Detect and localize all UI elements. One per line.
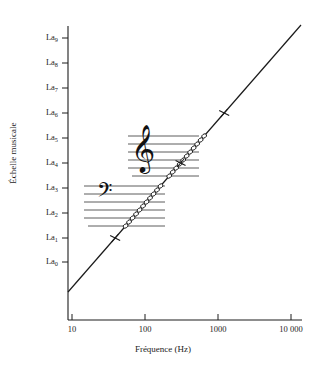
octave-cross-stroke-b-0	[112, 234, 119, 242]
y-tick-label-La2: La2	[24, 208, 58, 217]
x-axis-ticks	[72, 314, 291, 320]
y-tick-label-La4: La4	[24, 158, 58, 167]
y-tick-label-La7: La7	[24, 83, 58, 92]
x-tick-label-10: 10	[48, 325, 96, 334]
octave-cross-2	[219, 109, 229, 117]
x-tick-label-1000: 1000	[194, 325, 242, 334]
y-axis-title: Échelle musicale	[8, 93, 18, 213]
octave-cross-stroke-b-2	[221, 109, 228, 117]
y-tick-label-La0: La0	[24, 257, 58, 266]
x-tick-label-10000: 10 000	[267, 325, 315, 334]
note-markers	[110, 109, 229, 242]
y-tick-label-La1: La1	[24, 233, 58, 242]
octave-cross-0	[110, 234, 120, 242]
treble-clef-icon: 𝄞	[131, 128, 155, 169]
y-tick-label-La6: La6	[24, 108, 58, 117]
x-tick-label-100: 100	[121, 325, 169, 334]
y-tick-label-La9: La9	[24, 33, 58, 42]
x-axis-title: Fréquence (Hz)	[0, 344, 326, 354]
y-axis-ticks	[62, 38, 68, 262]
bass-clef-icon: 𝄢	[97, 181, 112, 205]
y-tick-label-La5: La5	[24, 133, 58, 142]
frequency-octave-chart: 𝄞 𝄢 La9La8La7La6La5La4La3La2La1La0 10100…	[0, 0, 326, 373]
axis-lines	[68, 26, 302, 320]
y-tick-label-La3: La3	[24, 183, 58, 192]
y-tick-label-La8: La8	[24, 58, 58, 67]
